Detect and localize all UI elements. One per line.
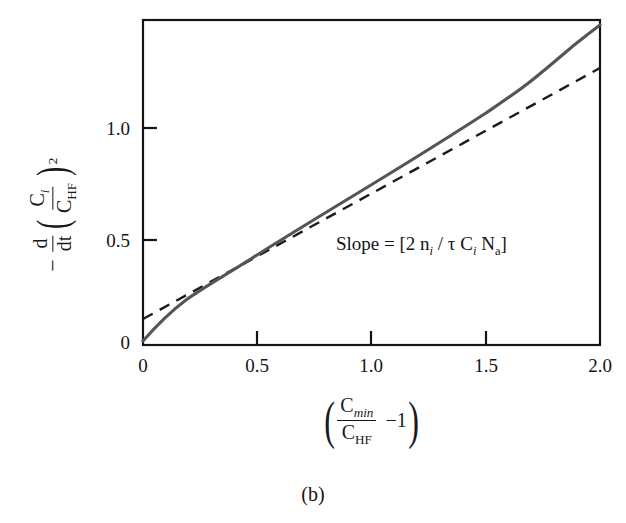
x-tick-label-0.5: 0.5 — [245, 356, 269, 375]
y-axis-chf-denominator: CHF — [54, 180, 79, 216]
y-axis-label: − d dt ( Ci CHF ) 2 — [18, 95, 88, 335]
y-axis-close-paren: ) — [36, 167, 70, 176]
x-axis-cmin-numerator: Cmin — [337, 395, 376, 421]
y-axis-exponent: 2 — [46, 158, 59, 165]
y-tick-label-0: 0 — [60, 333, 130, 352]
x-axis-close-paren: ) — [408, 400, 419, 442]
slope-annotation-c: C — [455, 233, 472, 254]
y-axis-ci-numerator: Ci — [27, 187, 53, 210]
x-axis-chf-denominator: CHF — [339, 421, 375, 446]
slope-annotation-suffix: ] — [500, 233, 506, 254]
x-tick-label-0: 0 — [138, 356, 148, 375]
x-tick-label-2.0: 2.0 — [588, 356, 612, 375]
x-axis-open-paren: ( — [324, 400, 335, 442]
figure-caption: (b) — [0, 483, 626, 506]
x-axis-label: ( Cmin CHF −1 ) — [143, 395, 600, 446]
x-tick-label-1.5: 1.5 — [474, 356, 498, 375]
slope-annotation-prefix: Slope = [2 n — [336, 233, 430, 254]
x-tick-label-1.0: 1.0 — [359, 356, 383, 375]
y-axis-dt-denominator: dt — [54, 233, 76, 255]
y-axis-derivative-fraction: d dt — [31, 233, 76, 255]
axis-frame — [143, 20, 600, 345]
slope-annotation-divider: / — [433, 233, 448, 254]
figure-container: 1.0 0.5 0 0 0.5 1.0 1.5 2.0 − d dt ( Ci … — [0, 0, 626, 523]
slope-annotation: Slope = [2 ni / τ Ci Na] — [336, 233, 507, 257]
x-axis-minus-one: −1 — [385, 409, 406, 432]
x-axis-concentration-fraction: Cmin CHF — [337, 395, 376, 446]
y-axis-d-numerator: d — [31, 236, 54, 252]
y-axis-concentration-fraction: Ci CHF — [27, 180, 78, 216]
y-axis-open-paren: ( — [36, 220, 70, 229]
y-axis-minus-sign: − — [40, 260, 66, 272]
slope-annotation-n: N — [476, 233, 494, 254]
